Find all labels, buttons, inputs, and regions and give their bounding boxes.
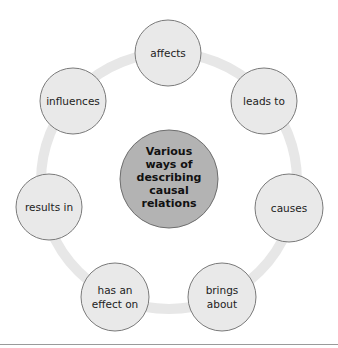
node-label-line-2: about: [207, 298, 237, 310]
node-label: causes: [271, 202, 307, 214]
center-line-1: Various: [146, 145, 193, 158]
node-leads-to: leads to: [231, 68, 297, 134]
center-line-4: causal: [149, 184, 189, 197]
node-affects: affects: [135, 20, 201, 86]
node-label-line-2: effect on: [92, 298, 138, 310]
node-label: affects: [150, 47, 186, 59]
center-line-2: ways of: [145, 158, 192, 171]
node-has-an-effect-on: has an effect on: [81, 263, 149, 331]
node-brings-about: brings about: [188, 263, 256, 331]
causal-relations-diagram: Various ways of describing causal relati…: [0, 0, 338, 348]
node-label: results in: [25, 201, 73, 213]
node-label-line-1: has an: [98, 284, 133, 296]
node-label-line-1: brings: [206, 284, 239, 296]
node-influences: influences: [40, 68, 106, 134]
node-causes: causes: [255, 174, 323, 242]
node-label: leads to: [243, 95, 285, 107]
bottom-divider: [0, 344, 338, 345]
center-node: Various ways of describing causal relati…: [120, 130, 218, 228]
center-line-5: relations: [141, 197, 196, 210]
node-label: influences: [46, 95, 100, 107]
center-line-3: describing: [137, 171, 202, 184]
node-results-in: results in: [16, 174, 82, 240]
